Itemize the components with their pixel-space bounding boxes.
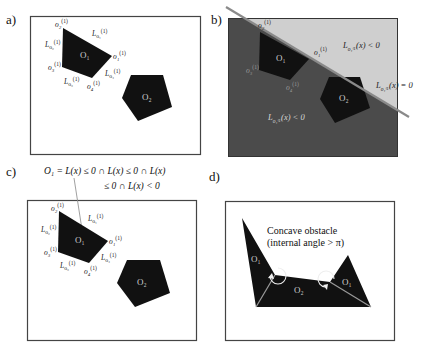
panel-c-frame: [28, 201, 197, 341]
panel-d-label: d): [209, 169, 220, 184]
panel-d: d) Concave obstacle (internal angle > π)…: [209, 169, 395, 341]
obstacle-o1-label: O₁: [276, 53, 286, 63]
obstacle-o1-label: O₁: [75, 235, 85, 245]
intersection-equation-line2: ≤ 0 ∩ L(x) < 0: [104, 181, 160, 192]
panel-b-label: b): [211, 12, 222, 27]
concave-note-line2: (internal angle > π): [267, 237, 344, 249]
panel-a-label: a): [6, 12, 16, 27]
concave-note-line1: Concave obstacle: [267, 225, 338, 236]
obstacle-o1-left-label: O₁: [251, 254, 261, 264]
panel-c-label: c): [6, 164, 16, 179]
panel-b: b) O₁ O₂ o₂(1) o₁(1) o₃(1) o₄(1) Lo₁⁽¹⁾(…: [211, 7, 413, 157]
intersection-equation-line1: O₁ = L(x) ≤ 0 ∩ L(x) ≤ 0 ∩ L(x): [44, 166, 165, 177]
obstacle-o1-right-label: O₁: [342, 277, 352, 287]
figure-canvas: a) O₁ O₂ o₂(1) o₁(1) o₃(1) o₄(1) Lo₁(1) …: [0, 0, 423, 347]
panel-a-frame: [31, 17, 201, 155]
obstacle-o2-label: O₂: [294, 285, 304, 295]
panel-a: a) O₁ O₂ o₂(1) o₁(1) o₃(1) o₄(1) Lo₁(1) …: [6, 12, 201, 155]
obstacle-o2-label: O₂: [142, 92, 152, 102]
obstacle-o2-label: O₂: [137, 277, 147, 287]
panel-c: c) O₁ = L(x) ≤ 0 ∩ L(x) ≤ 0 ∩ L(x) ≤ 0 ∩…: [6, 164, 197, 341]
obstacle-o1-label: O₁: [80, 50, 90, 60]
obstacle-o2-label: O₂: [339, 93, 349, 103]
